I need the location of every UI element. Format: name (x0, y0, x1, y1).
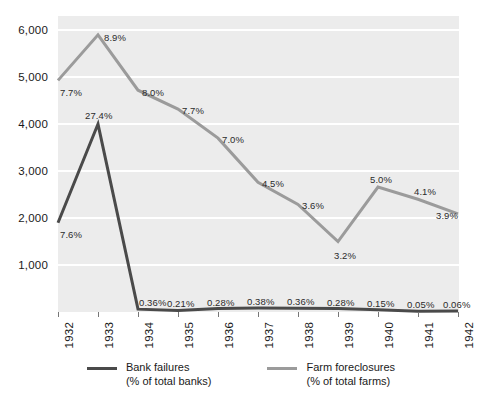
legend-item[interactable]: Farm foreclosures(% of total farms) (267, 360, 395, 388)
data-point-label: 7.7% (60, 87, 82, 98)
x-tick-mark (258, 312, 259, 317)
x-tick-mark (58, 312, 59, 317)
x-tick-label: 1939 (343, 322, 355, 348)
y-tick-label: 1,000 (18, 259, 48, 271)
y-tick-label: 4,000 (18, 118, 48, 130)
data-point-label: 3.9% (436, 210, 458, 221)
x-tick-label: 1936 (223, 322, 235, 348)
legend-label-secondary: (% of total banks) (126, 374, 212, 388)
y-axis: 1,0002,0003,0004,0005,0006,000 (0, 0, 58, 402)
x-tick-label: 1937 (263, 322, 275, 348)
legend-label-primary: Farm foreclosures (306, 361, 395, 373)
series-line-bank-failures (58, 124, 458, 311)
data-point-label: 0.38% (247, 296, 274, 307)
x-tick-label: 1933 (103, 322, 115, 348)
y-tick-label: 5,000 (18, 71, 48, 83)
x-tick-label: 1938 (303, 322, 315, 348)
x-tick-label: 1942 (463, 322, 475, 348)
data-point-label: 27.4% (85, 110, 112, 121)
x-tick-label: 1941 (423, 322, 435, 348)
data-point-label: 8.0% (142, 87, 164, 98)
x-tick-mark (338, 312, 339, 317)
data-point-label: 0.21% (167, 298, 194, 309)
x-tick-label: 1934 (143, 322, 155, 348)
data-point-label: 7.7% (182, 105, 204, 116)
data-point-label: 0.28% (327, 297, 354, 308)
legend-color-swatch (87, 367, 117, 370)
legend-item[interactable]: Bank failures(% of total banks) (87, 360, 212, 388)
y-tick-label: 3,000 (18, 165, 48, 177)
data-point-label: 4.1% (414, 186, 436, 197)
y-tick-label: 6,000 (18, 24, 48, 36)
x-tick-mark (138, 312, 139, 317)
series-layer (58, 16, 459, 312)
legend-label-primary: Bank failures (126, 361, 190, 373)
legend-color-swatch (267, 367, 297, 370)
data-point-label: 8.9% (104, 32, 126, 43)
legend-label: Farm foreclosures(% of total farms) (306, 360, 395, 388)
x-tick-mark (458, 312, 459, 317)
legend-label: Bank failures(% of total banks) (126, 360, 212, 388)
data-point-label: 7.6% (60, 229, 82, 240)
chart-container: 1,0002,0003,0004,0005,0006,000 7.6%27.4%… (0, 0, 482, 402)
x-tick-mark (218, 312, 219, 317)
data-point-label: 3.6% (302, 200, 324, 211)
chart-legend: Bank failures(% of total banks)Farm fore… (0, 360, 482, 402)
data-point-label: 3.2% (334, 250, 356, 261)
x-tick-label: 1932 (63, 322, 75, 348)
x-tick-mark (298, 312, 299, 317)
y-tick-label: 2,000 (18, 212, 48, 224)
data-point-label: 5.0% (370, 174, 392, 185)
data-point-label: 7.0% (222, 134, 244, 145)
x-tick-label: 1935 (183, 322, 195, 348)
data-point-label: 0.06% (443, 299, 470, 310)
x-tick-mark (178, 312, 179, 317)
x-tick-label: 1940 (383, 322, 395, 348)
data-point-label: 4.5% (262, 178, 284, 189)
x-tick-mark (98, 312, 99, 317)
data-point-label: 0.36% (287, 296, 314, 307)
data-point-label: 0.28% (207, 297, 234, 308)
x-tick-mark (378, 312, 379, 317)
legend-label-secondary: (% of total farms) (306, 374, 395, 388)
data-point-label: 0.36% (139, 297, 166, 308)
x-tick-mark (418, 312, 419, 317)
data-point-label: 0.15% (367, 298, 394, 309)
data-point-label: 0.05% (407, 299, 434, 310)
